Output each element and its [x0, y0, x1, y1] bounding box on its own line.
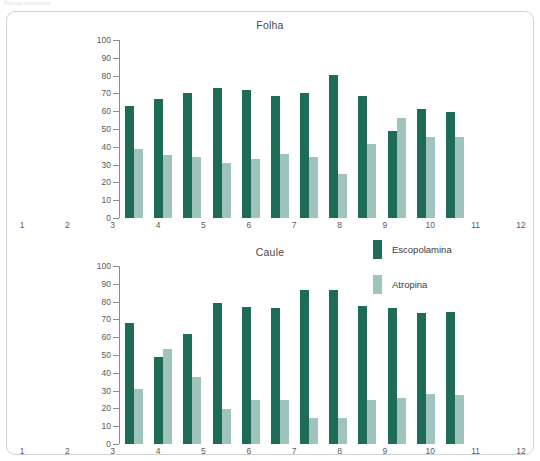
x-tick-label: 4: [149, 446, 167, 456]
y-tick: [113, 444, 119, 445]
x-tick-label: 6: [240, 220, 258, 230]
x-tick-label: 3: [104, 446, 122, 456]
bar-atropina-11: [426, 394, 435, 444]
bar-atropina-2: [163, 155, 172, 218]
bar-escopolamina-2: [154, 357, 163, 444]
y-tick: [113, 391, 119, 392]
y-tick: [113, 355, 119, 356]
y-tick: [113, 426, 119, 427]
bar-escopolamina-4: [213, 88, 222, 218]
bar-atropina-5: [251, 400, 260, 444]
legend-swatch-escopolamina: [373, 240, 382, 259]
x-tick-label: 5: [194, 220, 212, 230]
page-header-sliver: Plantas medicinais: [4, 0, 144, 8]
x-axis-labels-caule: 123456789101112: [8, 446, 533, 456]
y-tick: [113, 111, 119, 112]
x-tick-label: 11: [467, 220, 485, 230]
y-tick: [113, 373, 119, 374]
bar-escopolamina-3: [183, 93, 192, 218]
y-tick: [113, 218, 119, 219]
bar-atropina-9: [367, 400, 376, 445]
bar-group: [329, 40, 347, 218]
x-axis-labels-folha: 123456789101112: [8, 220, 533, 230]
y-tick: [113, 337, 119, 338]
x-tick-label: 2: [58, 220, 76, 230]
bar-atropina-9: [367, 144, 376, 218]
bar-escopolamina-7: [300, 93, 309, 218]
y-tick-label: 100: [97, 261, 111, 271]
bar-atropina-8: [338, 174, 347, 218]
x-tick-label: 9: [376, 220, 394, 230]
y-tick-label: 40: [102, 368, 111, 378]
legend-item-atropina: Atropina: [373, 275, 523, 294]
y-tick: [113, 319, 119, 320]
x-tick-label: 7: [285, 220, 303, 230]
bar-escopolamina-8: [329, 75, 338, 218]
x-tick-label: 12: [512, 446, 530, 456]
y-tick: [113, 200, 119, 201]
chart-panel-folha: Folha 0102030405060708090100 12345678910…: [7, 16, 533, 238]
bar-atropina-1: [134, 149, 143, 218]
bar-group: [183, 266, 201, 444]
bar-atropina-3: [192, 157, 201, 218]
bar-atropina-10: [397, 398, 406, 444]
bar-escopolamina-12: [446, 312, 455, 444]
y-tick: [113, 165, 119, 166]
bar-atropina-6: [280, 154, 289, 218]
bar-escopolamina-6: [271, 96, 280, 218]
bar-atropina-8: [338, 418, 347, 444]
bar-group: [271, 266, 289, 444]
y-tick-label: 70: [102, 88, 111, 98]
legend-label-escopolamina: Escopolamina: [392, 244, 452, 255]
bar-group: [242, 266, 260, 444]
x-tick-label: 8: [331, 446, 349, 456]
bar-atropina-4: [222, 163, 231, 218]
bar-escopolamina-4: [213, 303, 222, 445]
y-tick-label: 50: [102, 124, 111, 134]
bar-group: [154, 266, 172, 444]
y-tick-label: 100: [97, 35, 111, 45]
bar-group: [125, 40, 143, 218]
bar-group: [213, 40, 231, 218]
bar-escopolamina-1: [125, 323, 134, 444]
plot-area-folha: 0102030405060708090100: [119, 40, 467, 218]
y-tick-label: 20: [102, 177, 111, 187]
x-tick-label: 7: [285, 446, 303, 456]
chart-title-folha: Folha: [7, 19, 533, 31]
bar-group: [446, 40, 464, 218]
x-tick-label: 5: [194, 446, 212, 456]
bar-escopolamina-10: [388, 131, 397, 218]
bar-atropina-7: [309, 157, 318, 218]
bar-group: [125, 266, 143, 444]
bar-escopolamina-7: [300, 290, 309, 444]
bar-group: [154, 40, 172, 218]
bar-escopolamina-12: [446, 112, 455, 218]
y-tick: [113, 266, 119, 267]
y-tick-label: 30: [102, 386, 111, 396]
x-tick-label: 8: [331, 220, 349, 230]
bar-escopolamina-2: [154, 99, 163, 218]
y-tick-label: 50: [102, 350, 111, 360]
bar-escopolamina-6: [271, 308, 280, 444]
bar-escopolamina-5: [242, 90, 251, 218]
x-tick-label: 10: [421, 446, 439, 456]
bar-atropina-4: [222, 409, 231, 444]
y-tick: [113, 147, 119, 148]
x-tick-label: 4: [149, 220, 167, 230]
y-tick: [113, 129, 119, 130]
bar-atropina-12: [455, 395, 464, 444]
bar-group: [388, 40, 406, 218]
y-tick-label: 80: [102, 71, 111, 81]
y-tick: [113, 182, 119, 183]
bar-group: [300, 266, 318, 444]
x-tick-label: 6: [240, 446, 258, 456]
bar-atropina-1: [134, 389, 143, 444]
bar-escopolamina-11: [417, 313, 426, 444]
bar-atropina-3: [192, 377, 201, 444]
bar-escopolamina-5: [242, 307, 251, 444]
y-tick: [113, 302, 119, 303]
bar-atropina-7: [309, 418, 318, 444]
bar-escopolamina-9: [358, 306, 367, 444]
bar-atropina-11: [426, 137, 435, 218]
y-tick: [113, 58, 119, 59]
